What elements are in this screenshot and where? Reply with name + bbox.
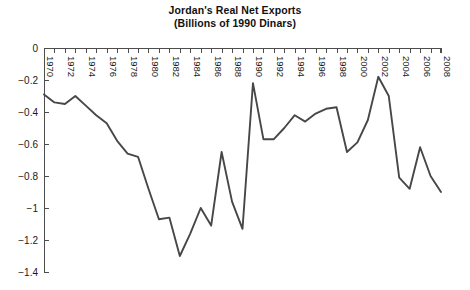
x-tick-label: 1988 [233, 56, 244, 77]
x-tick-label: 1970 [45, 56, 56, 77]
x-tick-label: 1994 [296, 56, 307, 77]
x-tick-label: 2002 [380, 56, 391, 77]
x-tick-label: 1982 [171, 56, 182, 77]
x-tick-label: 1990 [254, 56, 265, 77]
x-tick-label: 2008 [442, 56, 453, 77]
x-tick-label: 1972 [66, 56, 77, 77]
line-chart-svg: 0−0.2−0.4−0.6−0.8−1−1.2−1.4 197019721974… [0, 0, 470, 290]
y-tick-label: −1.4 [18, 267, 38, 278]
x-tick-label: 1978 [129, 56, 140, 77]
y-tick-label: −1.2 [18, 235, 38, 246]
x-tick-label: 1984 [192, 56, 203, 77]
y-tick-label: −0.4 [18, 107, 38, 118]
x-tick-label: 2004 [401, 56, 412, 77]
data-series-group [44, 77, 441, 256]
x-tick-label: 2006 [422, 56, 433, 77]
y-tick-label: −1 [27, 203, 39, 214]
x-tick-label: 1998 [338, 56, 349, 77]
x-tick-label: 1980 [150, 56, 161, 77]
x-tick-label: 1996 [317, 56, 328, 77]
x-tick-label: 1974 [87, 56, 98, 77]
plot-area: 0−0.2−0.4−0.6−0.8−1−1.2−1.4 197019721974… [0, 0, 470, 290]
series-line-jordan-real-net-exports [44, 77, 441, 256]
y-tick-label: −0.6 [18, 139, 38, 150]
x-tick-label: 2000 [359, 56, 370, 77]
y-tick-label: −0.2 [18, 75, 38, 86]
x-tick-label: 1976 [108, 56, 119, 77]
y-axis: 0−0.2−0.4−0.6−0.8−1−1.2−1.4 [18, 43, 49, 278]
y-tick-label: 0 [32, 43, 38, 54]
y-tick-label: −0.8 [18, 171, 38, 182]
x-tick-label: 1992 [275, 56, 286, 77]
chart-figure: Jordan's Real Net Exports (Billions of 1… [0, 0, 470, 290]
x-axis: 1970197219741976197819801982198419861988… [44, 48, 453, 77]
x-tick-label: 1986 [213, 56, 224, 77]
